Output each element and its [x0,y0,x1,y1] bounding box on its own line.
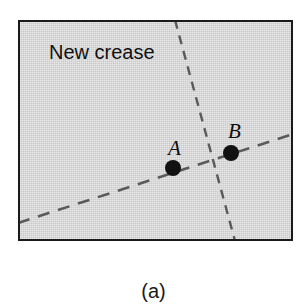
new-crease-dashed-line [175,20,235,241]
point-b-label: B [228,121,241,142]
new-crease-label: New crease [49,42,155,62]
point-b-dot [223,145,239,161]
paper-sheet-panel: New crease A B [18,20,293,241]
point-a-dot [165,160,181,176]
point-a-label: A [168,138,181,159]
figure-caption: (a) [0,281,307,301]
figure-a-root: New crease A B (a) [0,0,307,305]
ab-dashed-line [18,134,293,223]
